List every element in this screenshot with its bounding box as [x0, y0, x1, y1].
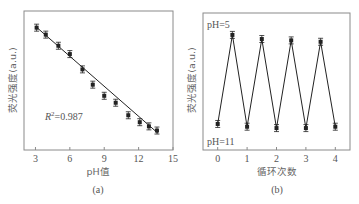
panel-b-x-axis-label: 循环次数 — [257, 166, 297, 177]
x-tick-label: 15 — [168, 153, 178, 164]
data-point — [275, 126, 279, 130]
panel-b-chart: 01234 pH=5 pH=11 循环次数 荧光强度(a.u.) (b) — [186, 13, 350, 196]
data-point — [319, 40, 323, 44]
panel-a-x-axis-label: pH值 — [86, 166, 109, 177]
data-point — [114, 101, 118, 105]
x-tick-label: 9 — [102, 153, 107, 164]
panel-a-caption: (a) — [92, 184, 103, 196]
data-point — [80, 67, 84, 71]
x-tick-label: 4 — [333, 153, 338, 164]
panel-b-caption: (b) — [271, 184, 283, 196]
x-tick-label: 3 — [33, 153, 38, 164]
series-line — [218, 35, 336, 128]
x-tick-label: 1 — [245, 153, 250, 164]
panel-b-data-line — [218, 35, 336, 128]
data-point — [155, 129, 159, 133]
data-point — [68, 52, 72, 56]
x-tick-label: 3 — [303, 153, 308, 164]
x-tick-label: 2 — [274, 153, 279, 164]
data-point — [289, 38, 293, 42]
panel-b-label-low: pH=11 — [207, 136, 235, 147]
data-point — [44, 33, 48, 37]
panel-a-plot-frame — [24, 11, 173, 150]
data-point — [245, 125, 249, 129]
data-point — [56, 44, 60, 48]
panel-a-chart: 3691215 R2=0.987 pH值 荧光强度(a.u.) (a) — [7, 11, 178, 196]
panel-b-y-axis-label: 荧光强度(a.u.) — [186, 47, 197, 112]
data-point — [102, 94, 106, 98]
data-point — [126, 113, 130, 117]
data-point — [304, 126, 308, 130]
data-point — [147, 124, 151, 128]
data-point — [35, 26, 39, 30]
panel-a-y-axis-label: 荧光强度(a.u.) — [7, 47, 18, 112]
data-point — [216, 122, 220, 126]
data-point — [333, 125, 337, 129]
data-point — [138, 120, 142, 124]
panel-b-label-high: pH=5 — [207, 19, 230, 30]
data-point — [260, 37, 264, 41]
panel-a-r2-annotation: R2=0.987 — [44, 110, 83, 122]
data-point — [230, 33, 234, 37]
data-point — [91, 83, 95, 87]
x-tick-label: 12 — [134, 153, 144, 164]
figure: 3691215 R2=0.987 pH值 荧光强度(a.u.) (a) 0123… — [0, 0, 359, 204]
x-tick-label: 0 — [215, 153, 220, 164]
x-tick-label: 6 — [67, 153, 72, 164]
